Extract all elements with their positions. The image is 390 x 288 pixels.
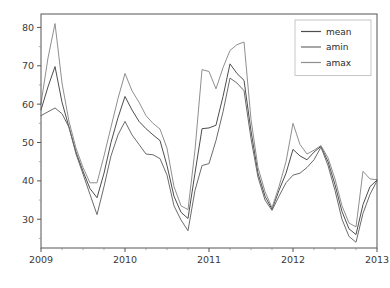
x-tick-label: 2010 bbox=[113, 254, 137, 265]
x-tick-label: 2013 bbox=[365, 254, 389, 265]
y-tick-label: 70 bbox=[22, 60, 34, 71]
legend-label-amin: amin bbox=[326, 42, 349, 52]
x-tick-label: 2009 bbox=[29, 254, 53, 265]
y-tick-label: 30 bbox=[22, 214, 34, 225]
y-tick-label: 50 bbox=[22, 137, 34, 148]
chart-legend[interactable]: meanaminamax bbox=[295, 20, 371, 76]
x-tick-label: 2011 bbox=[197, 254, 221, 265]
y-tick-label: 60 bbox=[22, 99, 34, 110]
line-chart-canvas: 20092010201120122013 304050607080 meanam… bbox=[0, 0, 390, 288]
y-tick-label: 80 bbox=[22, 22, 34, 33]
chart-figure: 20092010201120122013 304050607080 meanam… bbox=[0, 0, 390, 288]
y-tick-label: 40 bbox=[22, 175, 34, 186]
legend-label-amax: amax bbox=[326, 58, 352, 68]
x-tick-label: 2012 bbox=[281, 254, 305, 265]
legend-label-mean: mean bbox=[326, 27, 352, 37]
